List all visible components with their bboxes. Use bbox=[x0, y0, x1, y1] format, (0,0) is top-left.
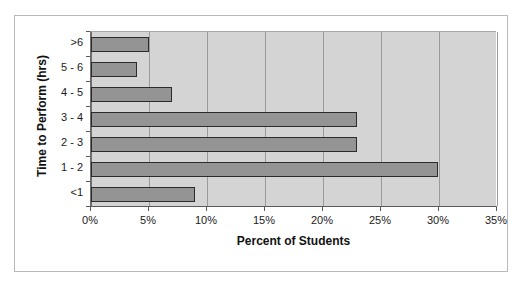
figure-frame: Time to Perform (hrs) >6 5 - 6 4 - 5 3 -… bbox=[14, 15, 508, 272]
bar-4-5[interactable] bbox=[91, 87, 172, 102]
x-tick-mark bbox=[438, 207, 439, 211]
x-tick-label-20: 20% bbox=[292, 214, 352, 226]
y-tick-label-1-2: 1 - 2 bbox=[33, 160, 83, 174]
y-tick-label-2-3: 2 - 3 bbox=[33, 135, 83, 149]
x-tick-mark bbox=[496, 207, 497, 211]
x-axis-title: Percent of Students bbox=[90, 234, 497, 248]
bar-2-3[interactable] bbox=[91, 137, 357, 152]
y-tick-label-gt6: >6 bbox=[33, 35, 83, 49]
bar-gt6[interactable] bbox=[91, 37, 149, 52]
plot-area bbox=[90, 31, 496, 206]
x-tick-label-0: 0% bbox=[60, 214, 120, 226]
bar-lt1[interactable] bbox=[91, 187, 195, 202]
y-tick-label-lt1: <1 bbox=[33, 185, 83, 199]
y-tick-label-3-4: 3 - 4 bbox=[33, 110, 83, 124]
y-tick-label-4-5: 4 - 5 bbox=[33, 85, 83, 99]
x-tick-mark bbox=[264, 207, 265, 211]
x-axis-line bbox=[90, 206, 497, 207]
y-tick-label-5-6: 5 - 6 bbox=[33, 60, 83, 74]
gridline-35 bbox=[497, 32, 498, 206]
x-tick-label-25: 25% bbox=[350, 214, 410, 226]
bar-5-6[interactable] bbox=[91, 62, 137, 77]
x-tick-label-10: 10% bbox=[176, 214, 236, 226]
x-tick-mark bbox=[148, 207, 149, 211]
bar-1-2[interactable] bbox=[91, 162, 438, 177]
gridline-30 bbox=[439, 32, 440, 206]
bar-3-4[interactable] bbox=[91, 112, 357, 127]
x-tick-label-15: 15% bbox=[234, 214, 294, 226]
x-tick-label-30: 30% bbox=[408, 214, 468, 226]
x-tick-label-5: 5% bbox=[118, 214, 178, 226]
gridline-25 bbox=[381, 32, 382, 206]
x-tick-label-35: 35% bbox=[466, 214, 519, 226]
x-tick-mark bbox=[90, 207, 91, 211]
x-tick-mark bbox=[206, 207, 207, 211]
x-tick-mark bbox=[322, 207, 323, 211]
x-tick-mark bbox=[380, 207, 381, 211]
